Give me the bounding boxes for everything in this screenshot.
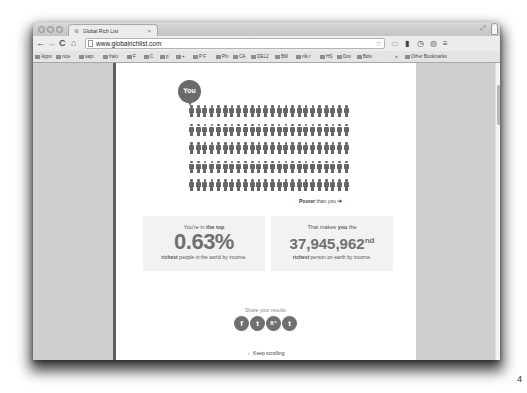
extension-globe-icon[interactable]: ◍ [430, 38, 437, 49]
person-icon [189, 161, 194, 173]
bookmark-folder[interactable]: sapt [79, 51, 94, 62]
person-icon [330, 142, 335, 154]
person-icon [290, 105, 295, 117]
person-icon [344, 179, 349, 191]
person-icon [209, 142, 214, 154]
person-icon [297, 142, 302, 154]
google-plus-share-button[interactable]: 8⁺ [266, 316, 281, 331]
scrollbar-thumb[interactable] [497, 85, 500, 125]
bookmark-item[interactable]: DEL2 [251, 51, 269, 62]
bookmarks-overflow-chevron[interactable]: » [395, 51, 398, 62]
person-icon [223, 105, 228, 117]
person-icon [256, 161, 261, 173]
bookmark-item[interactable]: BM [275, 51, 288, 62]
person-icon [263, 124, 268, 136]
share-buttons: f t 8⁺ t [234, 316, 297, 331]
page-icon [88, 40, 93, 47]
person-icon [283, 105, 288, 117]
person-icon [290, 124, 295, 136]
close-window-button[interactable] [38, 26, 45, 33]
person-icon [229, 124, 234, 136]
person-icon [236, 105, 241, 117]
bookmark-icon [144, 55, 149, 59]
facebook-share-button[interactable]: f [234, 316, 249, 331]
person-icon [263, 179, 268, 191]
bookmark-item[interactable]: nlk.r [296, 51, 311, 62]
keep-scrolling-link[interactable]: ↓Keep scrolling [116, 350, 416, 356]
you-marker: You [178, 80, 201, 103]
back-button[interactable]: ← [36, 37, 45, 50]
bookmark-item[interactable]: Dox [337, 51, 351, 62]
person-icon [209, 124, 214, 136]
person-icon [344, 161, 349, 173]
person-icon [297, 179, 302, 191]
person-icon [277, 179, 282, 191]
bookmark-star-icon[interactable]: ☆ [375, 39, 382, 49]
extension-evernote-icon[interactable]: ▮ [405, 38, 409, 49]
profile-icon[interactable] [491, 23, 498, 35]
person-icon [243, 105, 248, 117]
person-icon [297, 105, 302, 117]
menu-icon[interactable]: ≡ [443, 38, 448, 49]
person-icon [270, 179, 275, 191]
bookmark-apps[interactable]: Apps [35, 51, 51, 62]
bookmark-item[interactable]: p [160, 51, 169, 62]
fullscreen-icon[interactable]: ⤢ [480, 24, 486, 32]
person-icon [344, 142, 349, 154]
vertical-scrollbar[interactable] [495, 63, 500, 360]
bookmark-item[interactable]: Pin [216, 51, 229, 62]
forward-button[interactable]: → [47, 37, 56, 50]
twitter-share-button[interactable]: t [250, 316, 265, 331]
bookmark-item[interactable]: CA [233, 51, 245, 62]
page-icon [216, 55, 221, 59]
reload-button[interactable]: C [59, 37, 66, 50]
person-icon [236, 161, 241, 173]
folder-icon [103, 55, 108, 59]
address-bar[interactable]: www.globalrichlist.com ☆ [85, 38, 385, 49]
person-icon [229, 142, 234, 154]
person-icon [290, 179, 295, 191]
person-icon [202, 105, 207, 117]
person-icon [317, 179, 322, 191]
person-icon [223, 142, 228, 154]
person-icon [223, 179, 228, 191]
wifi-icon: ≋ [74, 28, 79, 34]
person-icon [202, 124, 207, 136]
zoom-window-button[interactable] [56, 26, 63, 33]
home-button[interactable]: ⌂ [71, 37, 76, 50]
bookmark-item[interactable]: C [144, 51, 153, 62]
person-icon [324, 105, 329, 117]
page-content: You Poorer than you ➔ You're in the top … [116, 63, 416, 360]
person-icon [337, 124, 342, 136]
tumblr-share-button[interactable]: t [282, 316, 297, 331]
person-icon [236, 142, 241, 154]
person-icon [250, 179, 255, 191]
minimize-window-button[interactable] [47, 26, 54, 33]
bookmarks-bar: Apps nice sapt fralo F C p + P F Pin CA … [33, 51, 500, 63]
poorer-than-you-label: Poorer than you ➔ [299, 197, 342, 204]
person-icon [310, 105, 315, 117]
bookmark-item[interactable]: HS [320, 51, 332, 62]
people-grid [189, 105, 349, 198]
person-icon [256, 179, 261, 191]
person-icon [303, 105, 308, 117]
bookmark-folder[interactable]: nice [56, 51, 70, 62]
person-icon [270, 124, 275, 136]
rank-lead: That makes you the [271, 224, 393, 230]
person-icon [263, 161, 268, 173]
extension-cast-icon[interactable]: ▭ [391, 38, 399, 49]
bookmark-item[interactable]: P F [193, 51, 206, 62]
person-icon [209, 161, 214, 173]
bookmark-folder[interactable]: fralo [103, 51, 118, 62]
bookmark-item[interactable]: F [127, 51, 136, 62]
extension-history-icon[interactable]: ◷ [417, 38, 424, 49]
bookmark-icon [176, 55, 181, 59]
bookmark-item[interactable]: + [176, 51, 185, 62]
other-bookmarks[interactable]: Other Bookmarks [405, 51, 447, 62]
page-icon [296, 55, 301, 59]
page-viewport: You Poorer than you ➔ You're in the top … [33, 63, 500, 360]
person-icon [243, 124, 248, 136]
bookmark-item[interactable]: Bdiv [357, 51, 372, 62]
person-icon [317, 142, 322, 154]
bookmark-icon [127, 55, 132, 59]
